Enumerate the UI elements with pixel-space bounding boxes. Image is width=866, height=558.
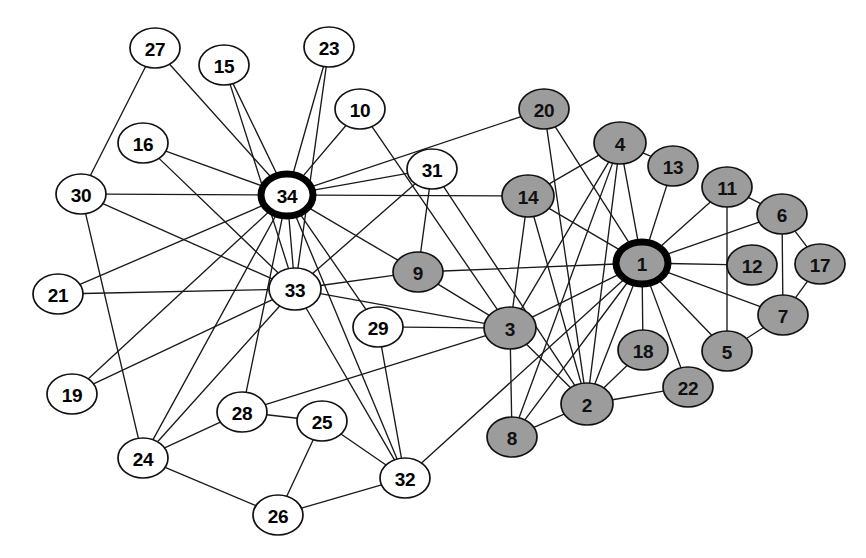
graph-edge	[746, 328, 763, 339]
graph-edge	[165, 422, 221, 448]
graph-node-34[interactable]: 34	[261, 174, 313, 216]
graph-edge	[748, 197, 760, 203]
graph-node-shape[interactable]	[304, 27, 354, 67]
network-graph-canvas[interactable]: 1234567891011121314151617181920212223242…	[0, 0, 866, 558]
graph-node-shape[interactable]	[795, 244, 845, 284]
graph-edge	[301, 485, 381, 508]
graph-edge	[590, 164, 618, 383]
graph-node-4[interactable]: 4	[594, 122, 646, 164]
graph-node-31[interactable]: 31	[407, 149, 457, 189]
graph-node-9[interactable]: 9	[393, 252, 443, 292]
graph-edge	[80, 205, 264, 285]
graph-node-shape[interactable]	[407, 149, 457, 189]
graph-edge	[94, 300, 273, 384]
graph-node-29[interactable]: 29	[353, 307, 403, 347]
graph-node-19[interactable]: 19	[47, 374, 97, 414]
graph-node-25[interactable]: 25	[297, 401, 347, 441]
graph-node-shape[interactable]	[648, 146, 698, 186]
graph-node-3[interactable]: 3	[484, 307, 536, 349]
graph-node-26[interactable]: 26	[253, 495, 303, 535]
graph-node-shape[interactable]	[217, 392, 267, 432]
graph-node-8[interactable]: 8	[487, 417, 537, 457]
graph-edge	[549, 155, 599, 184]
graph-edge	[308, 207, 398, 260]
graph-node-shape[interactable]	[594, 122, 646, 164]
graph-node-shape[interactable]	[353, 307, 403, 347]
graph-node-shape-leader[interactable]	[616, 242, 668, 284]
graph-edge	[403, 327, 484, 328]
graph-node-5[interactable]: 5	[702, 331, 752, 371]
graph-edge	[165, 467, 256, 505]
graph-edge	[83, 290, 269, 294]
graph-node-7[interactable]: 7	[758, 295, 808, 335]
graph-node-2[interactable]: 2	[561, 383, 613, 425]
graph-edge	[444, 187, 575, 386]
graph-node-21[interactable]: 21	[33, 274, 83, 314]
graph-node-shape[interactable]	[47, 374, 97, 414]
graph-node-shape[interactable]	[56, 174, 106, 214]
graph-node-shape[interactable]	[487, 417, 537, 457]
graph-node-shape-leader[interactable]	[261, 174, 313, 216]
graph-node-10[interactable]: 10	[335, 89, 385, 129]
graph-edge	[642, 284, 643, 330]
graph-node-13[interactable]: 13	[648, 146, 698, 186]
graph-node-shape[interactable]	[502, 175, 554, 217]
graph-node-12[interactable]: 12	[727, 245, 777, 285]
graph-edge	[604, 365, 627, 388]
graph-edge	[302, 126, 346, 178]
graph-edge	[106, 194, 261, 195]
graph-edge	[659, 202, 710, 248]
graph-node-16[interactable]: 16	[118, 123, 168, 163]
graph-node-shape[interactable]	[618, 330, 668, 370]
graph-node-shape[interactable]	[335, 89, 385, 129]
graph-edge	[612, 391, 663, 400]
graph-node-shape[interactable]	[702, 167, 752, 207]
edge-layer	[80, 64, 807, 508]
graph-node-shape[interactable]	[33, 274, 83, 314]
node-layer: 1234567891011121314151617181920212223242…	[33, 27, 845, 535]
graph-edge	[287, 440, 313, 497]
graph-node-18[interactable]: 18	[618, 330, 668, 370]
graph-node-11[interactable]: 11	[702, 167, 752, 207]
graph-node-shape[interactable]	[519, 89, 569, 129]
graph-node-28[interactable]: 28	[217, 392, 267, 432]
graph-node-shape[interactable]	[253, 495, 303, 535]
graph-node-30[interactable]: 30	[56, 174, 106, 214]
graph-node-shape[interactable]	[297, 401, 347, 441]
graph-node-shape[interactable]	[663, 367, 713, 407]
graph-node-23[interactable]: 23	[304, 27, 354, 67]
graph-edge	[649, 185, 667, 242]
graph-node-33[interactable]: 33	[269, 268, 321, 310]
graph-edge	[298, 67, 326, 268]
graph-edge	[795, 231, 807, 247]
graph-edge	[668, 263, 727, 264]
graph-edge	[796, 281, 808, 297]
graph-node-shape[interactable]	[199, 45, 249, 85]
graph-node-27[interactable]: 27	[130, 28, 180, 68]
graph-edge	[166, 151, 263, 186]
graph-node-shape[interactable]	[702, 331, 752, 371]
graph-node-shape[interactable]	[380, 458, 430, 498]
graph-node-shape[interactable]	[484, 307, 536, 349]
graph-node-shape[interactable]	[727, 245, 777, 285]
graph-node-24[interactable]: 24	[118, 438, 168, 478]
graph-node-15[interactable]: 15	[199, 45, 249, 85]
graph-node-shape[interactable]	[130, 28, 180, 68]
graph-node-shape[interactable]	[561, 383, 613, 425]
graph-node-14[interactable]: 14	[502, 175, 554, 217]
graph-edge	[267, 415, 297, 418]
graph-node-6[interactable]: 6	[757, 194, 807, 234]
graph-node-shape[interactable]	[757, 194, 807, 234]
graph-edge	[88, 211, 270, 379]
graph-edge	[782, 234, 783, 295]
graph-node-22[interactable]: 22	[663, 367, 713, 407]
graph-node-32[interactable]: 32	[380, 458, 430, 498]
graph-node-shape[interactable]	[758, 295, 808, 335]
graph-node-20[interactable]: 20	[519, 89, 569, 129]
graph-node-shape[interactable]	[393, 252, 443, 292]
graph-node-shape[interactable]	[269, 268, 321, 310]
graph-node-1[interactable]: 1	[616, 242, 668, 284]
graph-node-17[interactable]: 17	[795, 244, 845, 284]
graph-node-shape[interactable]	[118, 438, 168, 478]
graph-node-shape[interactable]	[118, 123, 168, 163]
